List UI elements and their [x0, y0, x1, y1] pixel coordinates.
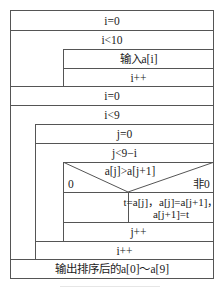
output-step: 输出排序后的a[0]～a[9] — [11, 260, 213, 278]
if-true-label: 非0 — [193, 178, 210, 190]
ns-flowchart: i=0 i<10 输入a[i] i++ i=0 i<9 j=0 j<9−i a[… — [0, 0, 219, 290]
caption-cutoff — [60, 286, 160, 287]
if-false-label: 0 — [68, 178, 74, 190]
loop2-increment: i++ — [36, 242, 213, 259]
swap-line-1: t=a[j]，a[j]=a[j+1]， — [124, 196, 219, 208]
if-false-branch-empty — [64, 193, 128, 222]
swap-line-2: a[j+1]=t — [153, 208, 189, 220]
loop3-increment: j++ — [64, 223, 213, 241]
if-condition: a[j]>a[j+1] — [100, 164, 160, 178]
swap-step: t=a[j]，a[j]=a[j+1]， a[j+1]=t — [129, 193, 213, 222]
